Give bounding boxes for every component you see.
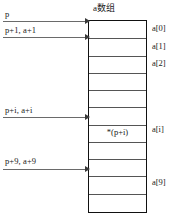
- array-index-label-a9: a[9]: [152, 177, 166, 187]
- array-cell-divider: [89, 107, 146, 108]
- array-cell-divider: [89, 125, 146, 126]
- array-index-label-a0: a[0]: [152, 23, 166, 33]
- pointer-arrow-line-pi: [3, 117, 89, 118]
- array-cell-divider: [89, 142, 146, 143]
- pointer-arrow-head-pi: [85, 114, 90, 120]
- pointer-arrow-line-p: [3, 21, 89, 22]
- pointer-label-p9: p+9, a+9: [5, 156, 36, 166]
- array-cell-divider: [89, 159, 146, 160]
- array-cell-value: *(p+i): [89, 127, 146, 137]
- array-index-label-ai: a[i]: [152, 124, 164, 134]
- pointer-label-p1: p+1, a+1: [5, 25, 36, 35]
- pointer-arrow-line-p9: [3, 169, 89, 170]
- array-cell-divider: [89, 90, 146, 91]
- array-cell-divider: [89, 38, 146, 39]
- pointer-arrow-head-p: [85, 18, 90, 24]
- pointer-arrow-line-p1: [3, 37, 89, 38]
- array-cell-divider: [89, 73, 146, 74]
- array-pointer-diagram: a数组 *(p+i) pp+1, a+1p+i, a+ip+9, a+9 a[0…: [0, 0, 177, 219]
- array-cell-divider: [89, 176, 146, 177]
- diagram-title: a数组: [93, 1, 116, 14]
- array-box: *(p+i): [88, 20, 147, 213]
- pointer-label-pi: p+i, a+i: [5, 105, 32, 115]
- array-index-label-a2: a[2]: [152, 58, 166, 68]
- array-cell-divider: [89, 56, 146, 57]
- pointer-arrow-head-p9: [85, 166, 90, 172]
- array-cell-divider: [89, 194, 146, 195]
- pointer-label-p: p: [5, 9, 9, 19]
- array-index-label-a1: a[1]: [152, 41, 166, 51]
- pointer-arrow-head-p1: [85, 34, 90, 40]
